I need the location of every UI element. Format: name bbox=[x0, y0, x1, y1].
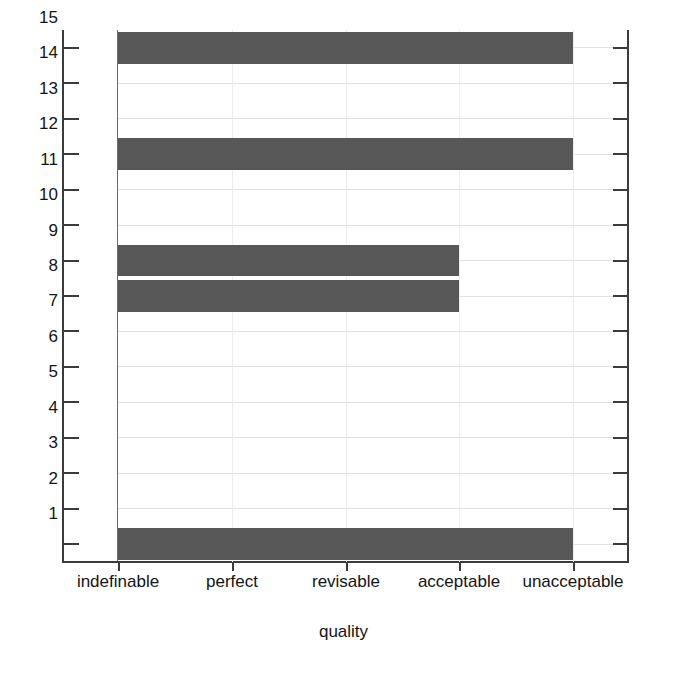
y-axis-tick-label: 3 bbox=[18, 434, 58, 451]
y-axis-tick-label: 8 bbox=[18, 257, 58, 274]
y-axis-tick bbox=[64, 330, 79, 332]
x-axis-tick-labels: indefinableperfectrevisableacceptableuna… bbox=[0, 572, 687, 598]
y-axis-right-tick bbox=[613, 47, 628, 49]
y-axis-right-tick bbox=[613, 330, 628, 332]
y-axis-tick-label: 15 bbox=[18, 9, 58, 26]
bar bbox=[118, 528, 573, 560]
y-axis-tick bbox=[64, 82, 79, 84]
vertical-gridline bbox=[573, 30, 574, 562]
gridline bbox=[118, 402, 628, 403]
y-axis-tick-label: 7 bbox=[18, 292, 58, 309]
x-axis-tick bbox=[459, 563, 461, 571]
gridline bbox=[118, 118, 628, 119]
y-axis-tick bbox=[64, 153, 79, 155]
y-axis-right-tick bbox=[613, 189, 628, 191]
y-axis-tick bbox=[64, 47, 79, 49]
x-axis-tick bbox=[232, 563, 234, 571]
x-axis-tick-label: indefinable bbox=[77, 572, 159, 592]
y-axis-tick-label: 10 bbox=[18, 186, 58, 203]
y-axis-tick bbox=[64, 260, 79, 262]
y-axis-right-tick bbox=[613, 153, 628, 155]
y-axis-right-tick bbox=[613, 472, 628, 474]
y-axis-right-tick bbox=[613, 543, 628, 545]
x-axis-tick-label: acceptable bbox=[418, 572, 500, 592]
y-axis-right-tick bbox=[613, 437, 628, 439]
y-axis-right-tick bbox=[613, 401, 628, 403]
y-axis-tick bbox=[64, 224, 79, 226]
y-axis-tick-label: 9 bbox=[18, 222, 58, 239]
gridline bbox=[118, 437, 628, 438]
y-axis-tick bbox=[64, 437, 79, 439]
bar bbox=[118, 138, 573, 170]
y-axis-tick-label: 2 bbox=[18, 470, 58, 487]
y-axis-right-tick bbox=[613, 508, 628, 510]
gridline bbox=[118, 331, 628, 332]
y-axis-tick bbox=[64, 401, 79, 403]
y-axis-tick bbox=[64, 508, 79, 510]
y-axis-tick bbox=[64, 189, 79, 191]
gridline bbox=[118, 473, 628, 474]
y-axis-tick bbox=[64, 472, 79, 474]
gridline bbox=[118, 225, 628, 226]
gridline bbox=[118, 189, 628, 190]
bar-chart: 123456789101112131415 indefinableperfect… bbox=[0, 0, 687, 690]
y-axis-tick-labels: 123456789101112131415 bbox=[12, 0, 58, 532]
gridline bbox=[118, 83, 628, 84]
y-axis-right-tick bbox=[613, 295, 628, 297]
bar bbox=[118, 280, 459, 312]
y-axis-tick bbox=[64, 295, 79, 297]
bar bbox=[118, 32, 573, 64]
x-axis-tick bbox=[118, 563, 120, 571]
y-axis-right-tick bbox=[613, 366, 628, 368]
y-axis-tick bbox=[64, 366, 79, 368]
bar bbox=[118, 245, 459, 277]
x-axis-tick bbox=[346, 563, 348, 571]
x-axis-tick-label: revisable bbox=[312, 572, 380, 592]
y-axis-right-tick bbox=[613, 260, 628, 262]
y-axis-tick bbox=[64, 118, 79, 120]
y-axis-tick-label: 11 bbox=[18, 151, 58, 168]
y-axis-tick-label: 14 bbox=[18, 44, 58, 61]
x-axis-tick-label: unacceptable bbox=[522, 572, 623, 592]
y-axis-tick-label: 1 bbox=[18, 505, 58, 522]
x-axis-title: quality bbox=[0, 622, 687, 642]
gridline bbox=[118, 366, 628, 367]
y-axis-tick-label: 12 bbox=[18, 115, 58, 132]
y-axis-right-tick bbox=[613, 82, 628, 84]
gridline bbox=[118, 508, 628, 509]
y-axis-tick-label: 5 bbox=[18, 363, 58, 380]
y-axis-right-tick bbox=[613, 224, 628, 226]
y-axis-tick bbox=[64, 543, 79, 545]
y-axis-tick-label: 13 bbox=[18, 80, 58, 97]
y-axis-tick-label: 4 bbox=[18, 399, 58, 416]
x-axis-tick bbox=[573, 563, 575, 571]
y-axis-tick-label: 6 bbox=[18, 328, 58, 345]
y-axis-right-tick bbox=[613, 118, 628, 120]
x-axis-tick-label: perfect bbox=[206, 572, 258, 592]
